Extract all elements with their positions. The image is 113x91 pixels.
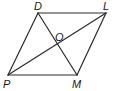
vertex-label-P: P	[3, 78, 11, 90]
parallelogram-diagram: D L O P M	[0, 0, 113, 91]
vertex-label-M: M	[72, 78, 82, 90]
vertex-label-D: D	[34, 0, 42, 12]
intersection-label-O: O	[55, 31, 64, 43]
vertex-label-L: L	[103, 0, 109, 12]
